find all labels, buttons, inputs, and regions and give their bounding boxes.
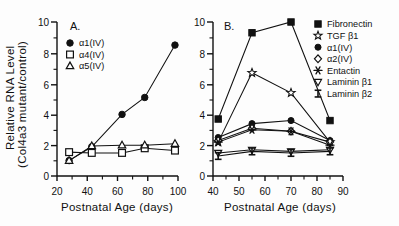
panel-b-xtick-50: 50 [233,186,245,197]
panel-b-legend-label-6: Laminin β2 [327,89,372,99]
data-point-filled-square [327,117,333,123]
data-point-filled-square [215,116,221,122]
panel-a-legend-label-2: α5(IV) [79,61,104,71]
panel-b-xtick-40: 40 [207,186,219,197]
data-point-filled-circle [119,111,125,117]
panel-a-legend-item-1[interactable]: α4(IV) [67,50,105,60]
data-point-filled-circle [315,44,321,50]
panel-b-letter: B. [224,20,234,32]
panel-b-x-axis-label: Postnatal Age (days) [224,201,336,213]
panel-a-legend-label-1: α4(IV) [79,50,104,60]
panel-a-ytick-0: 0 [43,171,49,182]
panel-a-xtick-100: 100 [170,186,187,197]
panel-a-letter: A. [70,20,80,32]
data-point-open-square [172,147,179,154]
panel-a-legend-label-0: α1(IV) [79,38,104,48]
data-point-filled-square [249,30,255,36]
panel-b-xtick-90: 90 [337,186,349,197]
panel-b-ytick-0: 0 [199,171,205,182]
panel-a-y-axis-label-line1: Relative RNA Level [4,46,16,150]
data-point-filled-square [288,19,294,25]
data-point-open-square [67,51,74,58]
panel-b-ytick-10: 10 [194,17,206,28]
panel-b-xtick-80: 80 [311,186,323,197]
panel-b-legend-label-3: α2(IV) [327,54,352,64]
panel-b-legend-label-2: α1(IV) [327,43,352,53]
data-point-open-square [88,150,95,157]
data-point-filled-circle [172,42,178,48]
panel-a-legend: α1(IV)α4(IV)α5(IV) [66,38,104,71]
data-point-open-square [119,150,126,157]
panel-a-y-axis-label: Relative RNA Level (Col4a3 mutant/contro… [4,41,28,168]
panel-b-ytick-4: 4 [199,110,205,121]
panel-a-ytick-10: 10 [38,17,50,28]
panel-a-ytick-2: 2 [43,141,49,152]
panel-a-ytick-8: 8 [43,49,49,60]
panel-b-ytick-2: 2 [199,141,205,152]
data-point-open-square [66,149,73,156]
data-point-filled-circle [67,40,73,46]
panel-a-ytick-6: 6 [43,80,49,91]
panel-b-ytick-8: 8 [199,49,205,60]
panel-a-x-axis-label: Postnatal Age (days) [61,201,173,213]
data-point-filled-circle [288,118,294,124]
data-point-filled-square [315,21,321,27]
panel-b-legend-label-4: Entactin [327,66,360,76]
panel-a-xtick-20: 20 [51,186,63,197]
panel-a-xtick-40: 40 [82,186,94,197]
panel-b-xtick-70: 70 [285,186,297,197]
panel-b-ytick-6: 6 [199,80,205,91]
panel-b-legend-label-1: TGF β1 [327,31,358,41]
panel-a-y-axis-label-line2: (Col4a3 mutant/control) [16,41,28,168]
figure-two-panel-line-charts: Relative RNA Level (Col4a3 mutant/contro… [0,0,399,226]
data-point-filled-circle [141,94,147,100]
panel-a-ytick-4: 4 [43,110,49,121]
panel-a-xtick-80: 80 [142,186,154,197]
panel-b-legend-label-5: Laminin β1 [327,77,372,87]
panel-a-xtick-60: 60 [112,186,124,197]
panel-b-xtick-60: 60 [259,186,271,197]
panel-b-legend-label-0: Fibronectin [327,19,372,29]
